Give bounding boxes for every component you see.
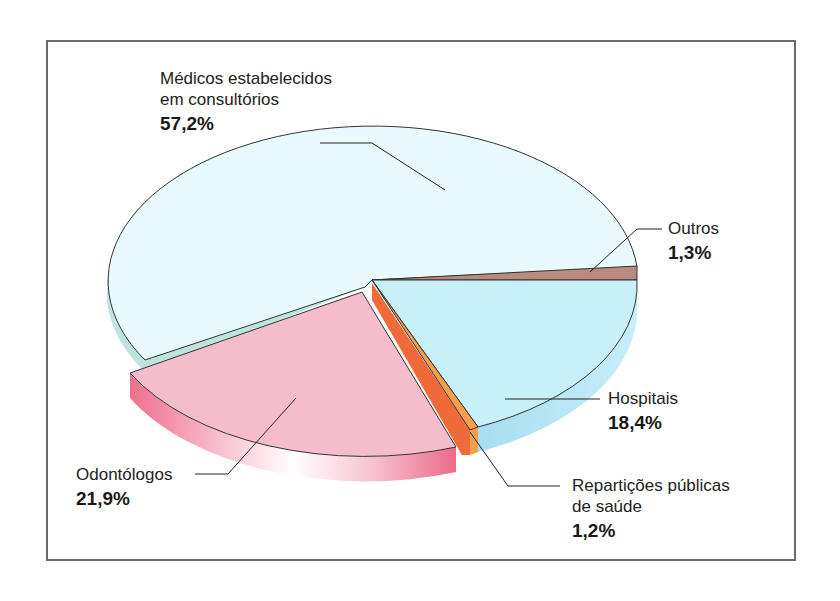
label-odontologos-line1: Odontólogos xyxy=(76,464,172,485)
label-odontologos-pct: 21,9% xyxy=(76,488,172,509)
label-reparticoes: Repartições públicas de saúde 1,2% xyxy=(572,475,730,541)
label-outros-pct: 1,3% xyxy=(668,242,719,263)
label-reparticoes-line1: Repartições públicas xyxy=(572,475,730,496)
label-medicos-line1: Médicos estabelecidos xyxy=(160,68,332,89)
label-medicos-line2: em consultórios xyxy=(160,89,332,110)
label-hospitais-line1: Hospitais xyxy=(608,388,678,409)
label-outros-line1: Outros xyxy=(668,218,719,239)
label-reparticoes-pct: 1,2% xyxy=(572,520,730,541)
label-hospitais: Hospitais 18,4% xyxy=(608,388,678,433)
label-medicos: Médicos estabelecidos em consultórios 57… xyxy=(160,68,332,134)
label-medicos-pct: 57,2% xyxy=(160,113,332,134)
label-reparticoes-line2: de saúde xyxy=(572,496,730,517)
label-odontologos: Odontólogos 21,9% xyxy=(76,464,172,509)
label-outros: Outros 1,3% xyxy=(668,218,719,263)
label-hospitais-pct: 18,4% xyxy=(608,412,678,433)
